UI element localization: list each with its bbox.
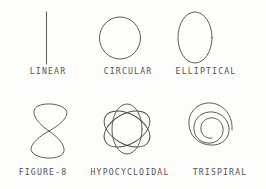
hypocycloidal-lobe-1	[112, 104, 142, 154]
pattern-drawings	[0, 0, 266, 189]
hypocycloidal-figure	[98, 104, 156, 155]
hypocycloidal-lobe-3	[98, 104, 156, 155]
elliptical-figure	[178, 12, 212, 63]
circular-figure	[100, 17, 141, 59]
caption-elliptical: ELLIPTICAL	[158, 66, 254, 76]
caption-figure-8: FIGURE-8	[0, 167, 86, 177]
trispiral-figure	[189, 103, 232, 145]
caption-trispiral: TRISPIRAL	[176, 167, 264, 177]
figure-sheet: LINEAR CIRCULAR ELLIPTICAL FIGURE-8 HYPO…	[0, 0, 266, 189]
caption-hypocycloidal: HYPOCYCLOIDAL	[76, 167, 184, 177]
figure-8-figure	[31, 104, 67, 158]
